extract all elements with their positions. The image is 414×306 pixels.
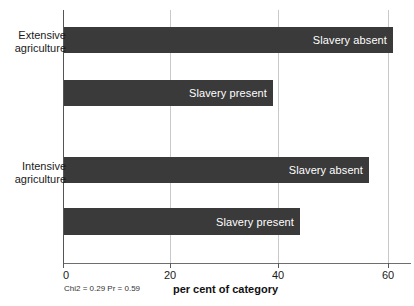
tick-mark-60 <box>388 263 389 268</box>
tick-mark-0 <box>63 263 64 268</box>
x-tick-label-40: 40 <box>272 269 284 281</box>
category-label-extensive: Extensive agriculture <box>15 29 66 55</box>
x-tick-label-0: 0 <box>63 269 69 281</box>
x-tick-label-20: 20 <box>164 269 176 281</box>
bar-chart: Slavery absent Slavery present Slavery a… <box>0 0 414 306</box>
bar-intensive-slavery-present: Slavery present <box>63 208 300 235</box>
x-axis-line <box>63 263 411 264</box>
category-label-line: Extensive <box>15 29 66 42</box>
category-label-intensive: Intensive agriculture <box>15 160 66 186</box>
bar-label: Slavery present <box>216 216 294 228</box>
bar-intensive-slavery-absent: Slavery absent <box>63 157 369 183</box>
bar-extensive-slavery-present: Slavery present <box>63 80 273 106</box>
bar-extensive-slavery-absent: Slavery absent <box>63 27 393 53</box>
category-label-line: agriculture <box>15 42 66 55</box>
tick-mark-40 <box>278 263 279 268</box>
bar-label: Slavery absent <box>289 164 363 176</box>
bar-label: Slavery present <box>189 87 267 99</box>
category-label-line: agriculture <box>15 173 66 186</box>
plot-area: Slavery absent Slavery present Slavery a… <box>63 10 388 263</box>
x-tick-label-60: 60 <box>382 269 394 281</box>
tick-mark-20 <box>170 263 171 268</box>
chi-square-annotation: Chi2 = 0.29 Pr = 0.59 <box>64 284 140 293</box>
category-label-line: Intensive <box>15 160 66 173</box>
bar-label: Slavery absent <box>313 34 387 46</box>
